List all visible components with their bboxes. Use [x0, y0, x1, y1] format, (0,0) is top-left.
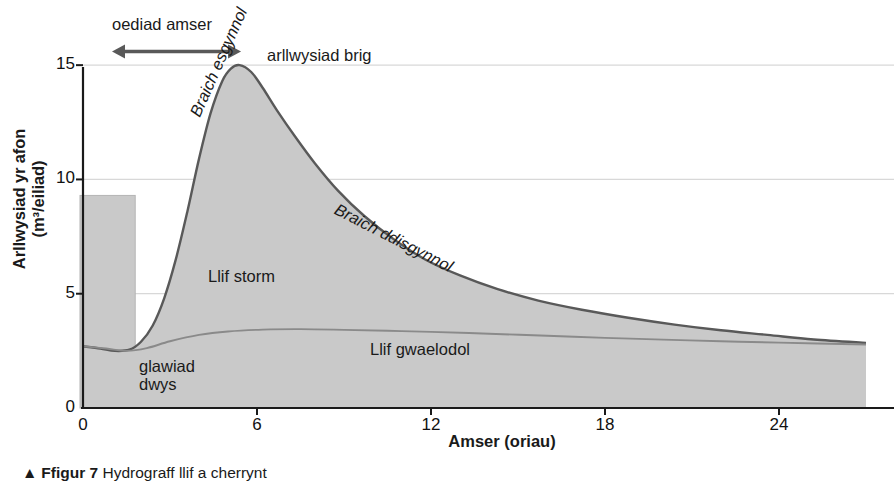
- annotation-storm-flow: Llif storm: [208, 267, 275, 286]
- y-axis-title-line1: Arllwysiad yr afon: [10, 129, 28, 269]
- annotation-intense-rainfall-line1: glawiad: [139, 357, 195, 375]
- x-tick-24: 24: [759, 415, 799, 435]
- annotation-peak-discharge: arllwysiad brig: [267, 46, 372, 65]
- y-tick-0: 0: [31, 397, 75, 417]
- x-tick-6: 6: [237, 415, 277, 435]
- y-tick-10: 10: [31, 168, 75, 188]
- annotation-intense-rainfall-line2: dwys: [139, 375, 177, 393]
- y-tick-15: 15: [31, 54, 75, 74]
- caption-text: Hydrograff llif a cherrynt: [103, 464, 267, 481]
- caption-label: Ffigur 7: [41, 464, 98, 481]
- annotation-lag-time: oediad amser: [112, 15, 212, 34]
- y-tick-5: 5: [31, 283, 75, 303]
- x-axis-title-text: Amser (oriau): [448, 432, 555, 450]
- figure-caption: ▲Ffigur 7 Hydrograff llif a cherrynt: [22, 464, 267, 482]
- caption-marker: ▲: [22, 464, 37, 481]
- annotation-intense-rainfall: glawiad dwys: [139, 357, 195, 394]
- x-tick-18: 18: [585, 415, 625, 435]
- x-tick-0: 0: [63, 415, 103, 435]
- annotation-base-flow: Llif gwaelodol: [370, 340, 470, 359]
- x-tick-12: 12: [411, 415, 451, 435]
